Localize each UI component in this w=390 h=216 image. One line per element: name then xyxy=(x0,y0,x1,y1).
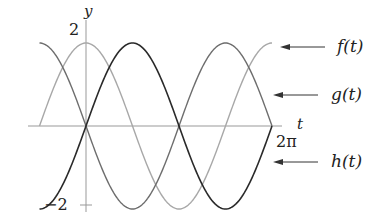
y-axis-label: y xyxy=(84,4,92,19)
t-axis-label: t xyxy=(297,117,303,132)
legend-g-label: g(t) xyxy=(331,86,362,103)
y-min-tick-label: −2 xyxy=(44,197,68,213)
legend-f-label: f(t) xyxy=(337,38,363,55)
y-max-tick-label: 2 xyxy=(69,22,79,38)
legend-h-label: h(t) xyxy=(331,153,362,170)
arrow-f xyxy=(280,44,325,50)
arrow-g xyxy=(273,92,318,98)
x-max-tick-label: 2π xyxy=(276,134,297,150)
arrow-h xyxy=(273,159,318,165)
chart-canvas xyxy=(0,0,390,216)
